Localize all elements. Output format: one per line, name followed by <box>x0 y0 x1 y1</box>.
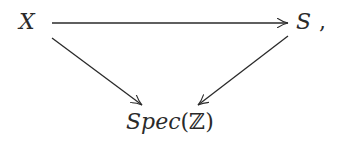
node-x-label: X <box>19 9 35 34</box>
node-s: S, <box>296 11 326 33</box>
arrow-s-to-spec <box>198 36 288 105</box>
arrow-x-to-spec <box>52 38 142 105</box>
spec-open-paren: ( <box>181 109 190 134</box>
integers-symbol: ℤ <box>189 109 205 134</box>
spec-close-paren: ) <box>205 109 214 134</box>
node-s-comma: , <box>319 9 326 34</box>
node-spec-z: Spec(ℤ) <box>126 111 214 133</box>
node-x: X <box>19 11 35 33</box>
spec-label: Spec <box>126 109 181 134</box>
node-s-label: S <box>296 9 311 34</box>
